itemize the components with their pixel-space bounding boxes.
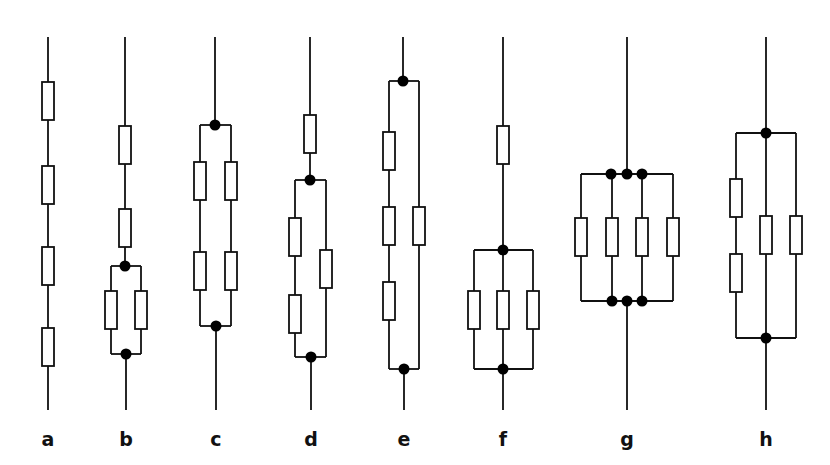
circuit-d: d xyxy=(289,37,332,450)
circuit-label: b xyxy=(119,428,133,450)
junction-node-icon xyxy=(637,169,648,180)
resistor-icon xyxy=(289,218,301,256)
circuit-label: e xyxy=(398,428,411,450)
junction-node-icon xyxy=(622,296,633,307)
resistor-icon xyxy=(790,216,802,254)
resistor-icon xyxy=(194,162,206,200)
junction-node-icon xyxy=(210,120,221,131)
resistor-icon xyxy=(730,254,742,292)
resistor-icon xyxy=(42,166,54,204)
junction-node-icon xyxy=(622,169,633,180)
resistor-icon xyxy=(320,250,332,288)
circuit-label: f xyxy=(499,428,508,450)
resistor-icon xyxy=(575,218,587,256)
junction-node-icon xyxy=(637,296,648,307)
resistor-icon xyxy=(527,291,539,329)
junction-node-icon xyxy=(120,261,131,272)
resistor-icon xyxy=(42,328,54,366)
circuit-label: a xyxy=(42,428,55,450)
resistor-icon xyxy=(413,207,425,245)
resistor-icon xyxy=(42,247,54,285)
resistor-icon xyxy=(383,282,395,320)
resistor-icon xyxy=(194,252,206,290)
junction-node-icon xyxy=(607,296,618,307)
circuit-label: h xyxy=(759,428,773,450)
junction-node-icon xyxy=(761,333,772,344)
resistor-icon xyxy=(119,209,131,247)
resistor-icon xyxy=(760,216,772,254)
junction-node-icon xyxy=(398,76,409,87)
junction-node-icon xyxy=(498,245,509,256)
resistor-icon xyxy=(497,126,509,164)
junction-node-icon xyxy=(305,175,316,186)
resistor-icon xyxy=(667,218,679,256)
resistor-icon xyxy=(225,252,237,290)
resistor-icon xyxy=(304,115,316,153)
circuit-label: d xyxy=(304,428,318,450)
junction-node-icon xyxy=(121,349,132,360)
junction-node-icon xyxy=(211,321,222,332)
circuit-h: h xyxy=(730,37,802,450)
circuit-f: f xyxy=(468,37,539,450)
circuit-a: a xyxy=(42,37,55,450)
resistor-icon xyxy=(497,291,509,329)
resistor-icon xyxy=(105,291,117,329)
resistor-icon xyxy=(119,126,131,164)
junction-node-icon xyxy=(761,128,772,139)
circuit-label: g xyxy=(620,428,634,450)
junction-node-icon xyxy=(606,169,617,180)
circuit-diagram: abcdefgh xyxy=(0,0,830,465)
resistor-icon xyxy=(383,207,395,245)
resistor-icon xyxy=(468,291,480,329)
junction-node-icon xyxy=(498,364,509,375)
resistor-icon xyxy=(636,218,648,256)
resistor-icon xyxy=(730,179,742,217)
circuit-c: c xyxy=(194,37,237,450)
junction-node-icon xyxy=(306,352,317,363)
circuit-g: g xyxy=(575,37,679,450)
junction-node-icon xyxy=(399,364,410,375)
resistor-icon xyxy=(383,132,395,170)
resistor-icon xyxy=(289,295,301,333)
circuit-label: c xyxy=(210,428,221,450)
resistor-icon xyxy=(225,162,237,200)
resistor-icon xyxy=(135,291,147,329)
resistor-icon xyxy=(42,82,54,120)
resistor-icon xyxy=(606,218,618,256)
circuit-e: e xyxy=(383,37,425,450)
circuit-b: b xyxy=(105,37,147,450)
